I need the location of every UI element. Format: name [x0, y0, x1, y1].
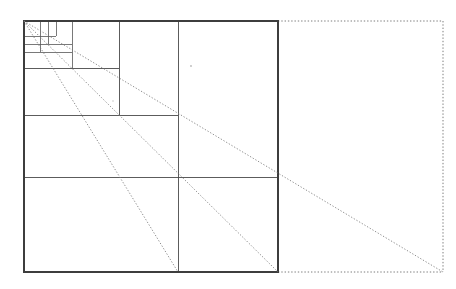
paper-speck-1 [112, 100, 113, 101]
paper-speck-0 [190, 65, 192, 67]
geometric-subdivision-diagram [0, 0, 456, 289]
diagram-background [0, 0, 456, 289]
figure-canvas [0, 0, 456, 289]
